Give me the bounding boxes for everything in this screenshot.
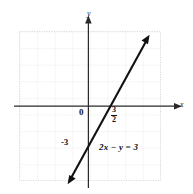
linear-equation-graph-figure: y x 0 3 2 -3 2x − y = 3 xyxy=(0,0,193,194)
x-intercept-fraction-label: 3 2 xyxy=(107,106,121,125)
y-intercept-label: -3 xyxy=(61,138,68,147)
equation-label: 2x − y = 3 xyxy=(99,143,138,152)
coordinate-plane-svg xyxy=(0,0,193,194)
fraction-three-halves: 3 2 xyxy=(111,106,117,125)
x-axis-label: x xyxy=(180,101,184,109)
origin-label: 0 xyxy=(79,108,84,117)
y-axis-label: y xyxy=(87,10,91,18)
fraction-numerator: 3 xyxy=(111,106,117,114)
fraction-denominator: 2 xyxy=(111,116,117,124)
